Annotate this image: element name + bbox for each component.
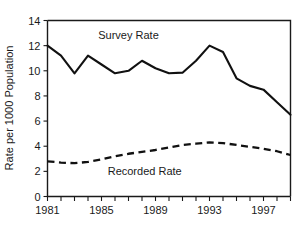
series-annotations: Survey RateRecorded Rate: [98, 29, 181, 177]
line-chart: Rate per 1000 Population 02468101214 198…: [0, 0, 306, 229]
series-line-recorded-rate: [48, 142, 291, 163]
y-tick-label: 6: [34, 115, 40, 127]
y-tick-label: 8: [34, 90, 40, 102]
x-tick-label: 1989: [143, 204, 167, 216]
y-axis-ticks: 02468101214: [28, 15, 47, 203]
x-tick-label: 1993: [197, 204, 221, 216]
y-axis-title-label: Rate per 1000 Population: [3, 46, 15, 171]
y-tick-label: 2: [34, 165, 40, 177]
x-axis-ticks: 19811985198919931997: [35, 197, 290, 216]
chart-container: Rate per 1000 Population 02468101214 198…: [0, 0, 306, 229]
y-tick-label: 10: [28, 65, 40, 77]
series-label-survey-rate: Survey Rate: [98, 29, 159, 41]
x-tick-label: 1997: [251, 204, 275, 216]
series-layer: [48, 46, 291, 164]
y-tick-label: 4: [34, 140, 40, 152]
y-tick-label: 14: [28, 15, 40, 27]
x-tick-label: 1981: [35, 204, 59, 216]
y-tick-label: 12: [28, 40, 40, 52]
series-label-recorded-rate: Recorded Rate: [108, 165, 182, 177]
series-line-survey-rate: [48, 46, 291, 115]
x-tick-label: 1985: [89, 204, 113, 216]
y-axis-title: Rate per 1000 Population: [3, 46, 15, 171]
y-tick-label: 0: [34, 191, 40, 203]
